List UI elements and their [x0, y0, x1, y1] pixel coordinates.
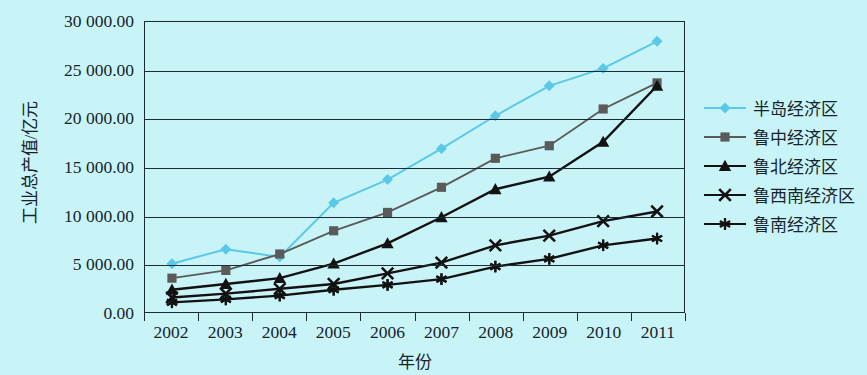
data-point-square — [491, 154, 500, 163]
data-point-square — [329, 226, 338, 235]
data-point-square — [275, 249, 284, 258]
legend: 半岛经济区鲁中经济区鲁北经济区鲁西南经济区鲁南经济区 — [703, 93, 867, 238]
y-axis-tick-label: 30 000.00 — [26, 11, 134, 32]
legend-item[interactable]: 鲁北经济区 — [703, 151, 867, 180]
x-axis-tick-mark — [631, 313, 632, 321]
data-point-square — [720, 132, 729, 141]
gridline — [145, 217, 684, 218]
data-point-square — [221, 266, 230, 275]
data-point-triangle — [381, 237, 393, 248]
x-axis-tick-mark — [523, 313, 524, 321]
y-axis-tick-label: 15 000.00 — [26, 157, 134, 178]
data-point-square — [383, 208, 392, 217]
legend-marker-star-icon — [703, 215, 747, 233]
legend-item[interactable]: 鲁中经济区 — [703, 122, 867, 151]
data-point-diamond — [166, 258, 177, 269]
legend-item[interactable]: 鲁西南经济区 — [703, 180, 867, 209]
legend-marker-diamond-icon — [703, 99, 747, 117]
y-axis-tick-label: 0.00 — [26, 303, 134, 324]
line-chart: 工业总产值/亿元 0.005 000.0010 000.0015 000.002… — [0, 0, 867, 375]
legend-label: 半岛经济区 — [747, 95, 838, 120]
x-axis-tick-mark — [306, 313, 307, 321]
x-axis-title: 年份 — [144, 348, 685, 373]
data-point-diamond — [544, 80, 555, 91]
data-point-diamond — [598, 63, 609, 74]
series-line — [172, 86, 657, 290]
y-axis-tick-label: 20 000.00 — [26, 108, 134, 129]
data-point-diamond — [220, 244, 231, 255]
x-axis-tick-mark — [415, 313, 416, 321]
data-point-diamond — [720, 102, 731, 113]
legend-marker-x-icon — [703, 186, 747, 204]
legend-label: 鲁西南经济区 — [747, 182, 855, 207]
x-axis-tick-mark — [198, 313, 199, 321]
plot-area — [144, 21, 685, 313]
x-axis-tick-mark — [685, 313, 686, 321]
data-point-diamond — [382, 174, 393, 185]
legend-label: 鲁北经济区 — [747, 153, 838, 178]
data-point-square — [437, 183, 446, 192]
legend-label: 鲁中经济区 — [747, 124, 838, 149]
data-point-triangle — [543, 171, 555, 182]
series-5 — [167, 233, 662, 308]
data-point-diamond — [652, 36, 663, 47]
series-canvas — [145, 22, 684, 312]
legend-item[interactable]: 鲁南经济区 — [703, 209, 867, 238]
y-axis-tick-label: 25 000.00 — [26, 59, 134, 80]
series-line — [172, 211, 657, 297]
data-point-square — [545, 141, 554, 150]
gridline — [145, 168, 684, 169]
gridline — [145, 119, 684, 120]
x-axis-tick-mark — [469, 313, 470, 321]
legend-marker-triangle-icon — [703, 157, 747, 175]
data-point-square — [167, 274, 176, 283]
gridline — [145, 71, 684, 72]
x-axis-tick-mark — [360, 313, 361, 321]
y-axis-tick-labels: 0.005 000.0010 000.0015 000.0020 000.002… — [26, 0, 134, 375]
gridline — [145, 265, 684, 266]
legend-label: 鲁南经济区 — [747, 211, 838, 236]
x-axis-tick-label: 2011 — [623, 322, 693, 343]
legend-marker-square-icon — [703, 128, 747, 146]
x-axis-tick-mark — [577, 313, 578, 321]
series-4 — [166, 206, 663, 304]
data-point-diamond — [436, 143, 447, 154]
x-axis-tick-mark — [252, 313, 253, 321]
x-axis-tick-mark — [144, 313, 145, 321]
legend-item[interactable]: 半岛经济区 — [703, 93, 867, 122]
y-axis-tick-label: 5 000.00 — [26, 254, 134, 275]
y-axis-tick-label: 10 000.00 — [26, 205, 134, 226]
data-point-square — [599, 104, 608, 113]
series-3 — [166, 80, 663, 295]
